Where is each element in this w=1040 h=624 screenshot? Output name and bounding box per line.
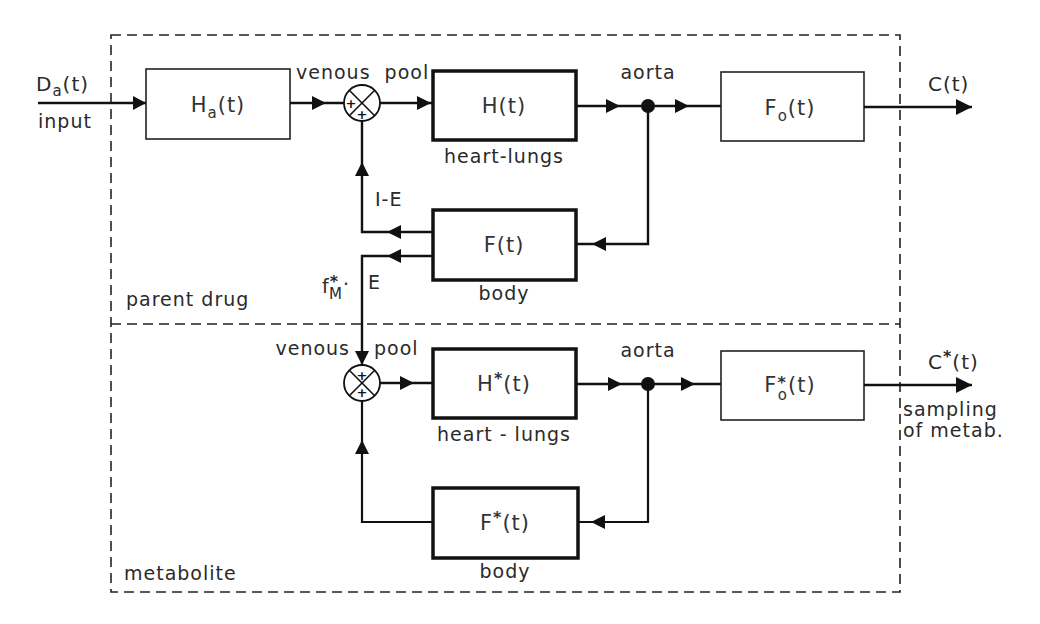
aorta-label: aorta	[620, 61, 675, 83]
metabolite-section-label: metabolite	[124, 562, 237, 584]
svg-text:+: +	[346, 96, 357, 111]
recirculation-label: I-E	[375, 188, 402, 210]
metab-body-caption: body	[480, 560, 531, 582]
metabolite-section: venous pool + + H*(t) heart - lungs aort…	[124, 337, 1004, 584]
arrowhead-icon	[956, 99, 972, 115]
input-signal-label: Da(t)	[36, 72, 89, 100]
input-label: input	[38, 110, 92, 132]
arrowhead-icon	[387, 225, 401, 239]
arrowhead-icon	[312, 96, 326, 110]
arrowhead-icon	[675, 99, 689, 113]
arrowhead-icon	[417, 96, 431, 110]
svg-text:+: +	[357, 107, 368, 122]
feedback-line	[576, 106, 648, 244]
arrowhead-icon	[608, 377, 622, 391]
metab-heart-lungs-caption: heart - lungs	[437, 423, 571, 445]
recirculation-line	[362, 121, 433, 232]
parent-drug-section-label: parent drug	[126, 288, 249, 310]
metab-body-block-label: F*(t)	[480, 508, 530, 535]
sampling-note-line-1: sampling	[903, 398, 998, 420]
parent-drug-section: Da(t) input Ha(t) venous pool + + H(t) h…	[36, 61, 972, 365]
pharmacokinetic-block-diagram: Da(t) input Ha(t) venous pool + + H(t) h…	[0, 0, 1040, 624]
heart-lungs-caption: heart-lungs	[444, 145, 564, 167]
body-block-label: F(t)	[484, 233, 525, 257]
arrowhead-icon	[355, 440, 369, 454]
arrowhead-icon	[387, 249, 401, 263]
metab-output-label: C*(t)	[928, 347, 979, 374]
svg-text:+: +	[357, 385, 368, 400]
metab-aorta-label: aorta	[620, 339, 675, 361]
arrowhead-icon	[592, 237, 606, 251]
summing-junction-icon: + +	[344, 365, 380, 401]
summing-junction-icon: + +	[344, 85, 380, 122]
metabolic-fraction-label: f*M·	[322, 272, 350, 303]
arrowhead-icon	[681, 377, 695, 391]
body-caption: body	[479, 282, 530, 304]
metab-feedback-line	[578, 384, 648, 522]
metab-recirculation-line	[362, 401, 433, 522]
sampling-note-line-2: of metab.	[903, 419, 1004, 441]
arrowhead-icon	[591, 515, 605, 529]
venous-label: venous	[275, 337, 350, 359]
output-label: C(t)	[928, 72, 969, 96]
svg-text:+: +	[357, 368, 368, 383]
venous-pool-label: venous pool	[296, 61, 429, 83]
arrowhead-icon	[606, 99, 620, 113]
heart-lungs-block-label: H(t)	[482, 94, 526, 118]
arrowhead-icon	[355, 351, 369, 365]
arrowhead-icon	[355, 162, 369, 176]
arrowhead-icon	[133, 96, 146, 110]
pool-label: pool	[374, 337, 419, 359]
arrowhead-icon	[956, 377, 972, 393]
metab-heart-lungs-block-label: H*(t)	[477, 369, 531, 396]
extraction-label: E	[368, 271, 381, 293]
arrowhead-icon	[400, 376, 414, 390]
